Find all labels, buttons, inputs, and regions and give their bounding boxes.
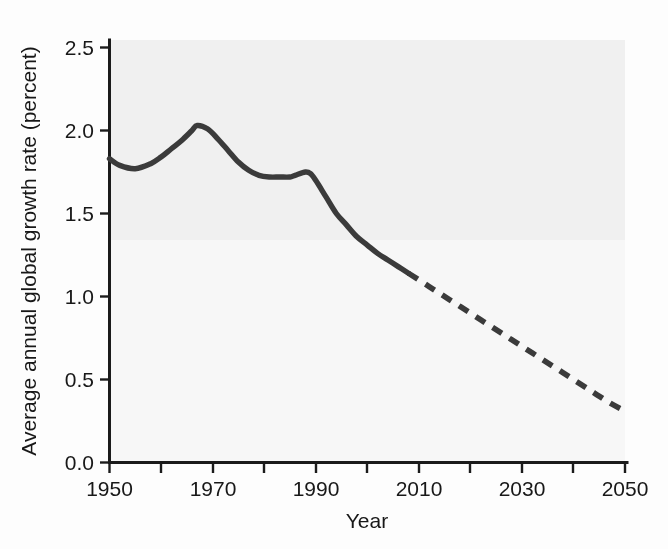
x-axis-title: Year bbox=[346, 509, 388, 532]
plot-background-lower-band bbox=[110, 240, 625, 462]
y-axis-title: Average annual global growth rate (perce… bbox=[17, 46, 40, 455]
y-tick-label-4: 2.0 bbox=[65, 119, 94, 142]
growth-rate-line-chart: 0.0 0.5 1.0 1.5 2.0 2.5 1950 1970 1990 bbox=[0, 0, 668, 549]
y-tick-label-3: 1.5 bbox=[65, 202, 94, 225]
x-axis-ticks bbox=[110, 463, 626, 474]
y-tick-label-2: 1.0 bbox=[65, 285, 94, 308]
y-axis-tick-labels: 0.0 0.5 1.0 1.5 2.0 2.5 bbox=[65, 36, 94, 474]
x-axis-tick-labels: 1950 1970 1990 2010 2030 2050 bbox=[86, 477, 648, 500]
figure-container: 0.0 0.5 1.0 1.5 2.0 2.5 1950 1970 1990 bbox=[0, 0, 668, 549]
x-tick-label-1970: 1970 bbox=[190, 477, 237, 500]
x-tick-label-1950: 1950 bbox=[86, 477, 133, 500]
y-tick-label-1: 0.5 bbox=[65, 368, 94, 391]
y-tick-label-5: 2.5 bbox=[65, 36, 94, 59]
plot-background-upper-band bbox=[110, 40, 625, 240]
y-tick-label-0: 0.0 bbox=[65, 451, 94, 474]
x-tick-label-2030: 2030 bbox=[499, 477, 546, 500]
x-tick-label-2010: 2010 bbox=[396, 477, 443, 500]
x-tick-label-2050: 2050 bbox=[602, 477, 649, 500]
x-tick-label-1990: 1990 bbox=[293, 477, 340, 500]
